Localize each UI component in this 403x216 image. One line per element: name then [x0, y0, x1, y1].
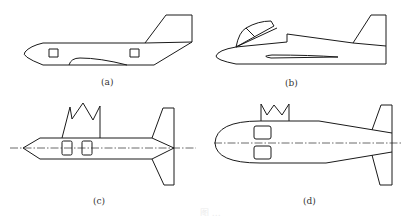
- panel-label-a: (a): [101, 77, 113, 87]
- upper-fin-c: [152, 108, 174, 148]
- window-icon: [130, 49, 139, 57]
- upper-fin-d: [372, 105, 392, 133]
- panel-label-c: (c): [93, 196, 105, 206]
- fin-root-a: [145, 42, 192, 43]
- ventral-fairing-a: [69, 58, 127, 65]
- sail-crown-c: [62, 103, 100, 138]
- faint-caption: 图 …: [200, 206, 221, 216]
- fuselage-b: [216, 15, 386, 64]
- canopy-icon: [236, 21, 274, 47]
- panel-a-aircraft: [24, 15, 192, 65]
- canopy-frame: [246, 28, 255, 37]
- panel-b-aircraft: [216, 15, 386, 64]
- hull-c: [23, 138, 174, 159]
- panel-c-hull: [10, 103, 196, 185]
- wing-slot-b: [266, 55, 338, 58]
- window-icon: [49, 49, 58, 57]
- window-icon: [254, 146, 271, 159]
- fin-root-b: [353, 43, 386, 46]
- diagram-canvas: [0, 0, 403, 216]
- sail-crown-d: [261, 104, 289, 121]
- lower-fin-d: [372, 152, 392, 185]
- panel-label-b: (b): [285, 78, 298, 88]
- panel-d-hull: [214, 104, 403, 185]
- panel-label-d: (d): [303, 196, 316, 206]
- hull-d: [215, 121, 392, 163]
- window-icon: [254, 126, 271, 139]
